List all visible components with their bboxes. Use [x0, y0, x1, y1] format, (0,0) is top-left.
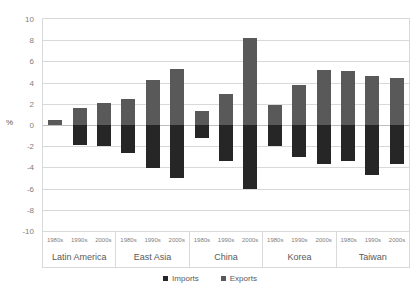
- grouped-bar-chart: % 1086420-2-4-6-8-10 1980s1990s2000sLati…: [0, 0, 420, 298]
- x-axis-decade-labels: 1980s1990s2000s: [43, 232, 115, 247]
- x-axis-decade-label: 1990s: [214, 237, 238, 243]
- bar-imports: [268, 125, 282, 146]
- y-axis-tick: 8: [0, 36, 34, 45]
- y-axis-tick-labels: 1086420-2-4-6-8-10: [0, 18, 38, 232]
- legend-swatch-icon: [163, 276, 168, 281]
- bar-slot: [390, 19, 404, 231]
- x-axis-group-label: China: [190, 247, 262, 267]
- x-axis-decade-label: 1980s: [337, 237, 361, 243]
- bar-imports: [390, 125, 404, 164]
- x-axis-category-table: 1980s1990s2000sLatin America1980s1990s20…: [42, 232, 410, 268]
- bar-slot: [268, 19, 282, 231]
- bar-exports: [146, 80, 160, 125]
- bar-exports: [97, 103, 111, 125]
- bar-slot: [317, 19, 331, 231]
- bar-exports: [292, 85, 306, 125]
- bar-group: [336, 19, 409, 231]
- x-axis-decade-label: 1990s: [141, 237, 165, 243]
- x-axis-group-cell: 1980s1990s2000sTaiwan: [336, 232, 410, 268]
- bar-exports: [195, 111, 209, 125]
- x-axis-group-label: East Asia: [116, 247, 188, 267]
- y-axis-tick: 0: [0, 121, 34, 130]
- bar-group: [116, 19, 189, 231]
- x-axis-decade-labels: 1980s1990s2000s: [116, 232, 188, 247]
- x-axis-group-cell: 1980s1990s2000sEast Asia: [115, 232, 188, 268]
- bar-imports: [146, 125, 160, 168]
- bar-exports: [219, 94, 233, 125]
- bar-slot: [48, 19, 62, 231]
- legend-label: Imports: [172, 274, 199, 283]
- bar-imports: [219, 125, 233, 161]
- legend-item[interactable]: Exports: [221, 274, 257, 283]
- bar-slot: [195, 19, 209, 231]
- x-axis-group-cell: 1980s1990s2000sLatin America: [42, 232, 115, 268]
- bar-exports: [73, 108, 87, 125]
- y-axis-tick: 10: [0, 15, 34, 24]
- bar-exports: [317, 70, 331, 125]
- x-axis-decade-label: 1990s: [67, 237, 91, 243]
- bar-exports: [48, 120, 62, 125]
- x-axis-decade-label: 2000s: [385, 237, 409, 243]
- bar-group: [189, 19, 262, 231]
- bar-exports: [243, 38, 257, 125]
- x-axis-decade-label: 1980s: [263, 237, 287, 243]
- bar-groups: [43, 19, 409, 231]
- chart-legend: ImportsExports: [0, 274, 420, 283]
- x-axis-decade-label: 2000s: [165, 237, 189, 243]
- x-axis-decade-label: 1990s: [361, 237, 385, 243]
- x-axis-group-label: Taiwan: [337, 247, 409, 267]
- bar-slot: [243, 19, 257, 231]
- x-axis-decade-label: 1980s: [43, 237, 67, 243]
- bar-group: [263, 19, 336, 231]
- x-axis-group-label: Korea: [263, 247, 335, 267]
- y-axis-tick: -10: [0, 227, 34, 236]
- x-axis-group-cell: 1980s1990s2000sChina: [189, 232, 262, 268]
- y-axis-tick: 6: [0, 57, 34, 66]
- bar-imports: [73, 125, 87, 145]
- x-axis-group-cell: 1980s1990s2000sKorea: [262, 232, 335, 268]
- bar-exports: [365, 76, 379, 125]
- x-axis-group-label: Latin America: [43, 247, 115, 267]
- bar-imports: [317, 125, 331, 164]
- bar-exports: [341, 71, 355, 125]
- bar-slot: [97, 19, 111, 231]
- bar-slot: [292, 19, 306, 231]
- x-axis-decade-label: 2000s: [238, 237, 262, 243]
- bar-group: [43, 19, 116, 231]
- bar-slot: [341, 19, 355, 231]
- x-axis-decade-label: 1990s: [287, 237, 311, 243]
- legend-label: Exports: [230, 274, 257, 283]
- x-axis-decade-label: 2000s: [312, 237, 336, 243]
- y-axis-tick: 2: [0, 99, 34, 108]
- y-axis-tick: -2: [0, 142, 34, 151]
- y-axis-tick: -4: [0, 163, 34, 172]
- x-axis-decade-labels: 1980s1990s2000s: [337, 232, 409, 247]
- bar-slot: [146, 19, 160, 231]
- bar-slot: [170, 19, 184, 231]
- bar-exports: [268, 105, 282, 125]
- y-axis-tick: -6: [0, 184, 34, 193]
- x-axis-decade-label: 1980s: [190, 237, 214, 243]
- bar-exports: [170, 69, 184, 125]
- bar-slot: [73, 19, 87, 231]
- bar-imports: [97, 125, 111, 146]
- bar-imports: [121, 125, 135, 153]
- x-axis-decade-labels: 1980s1990s2000s: [190, 232, 262, 247]
- bar-imports: [195, 125, 209, 138]
- bar-imports: [243, 125, 257, 189]
- x-axis-decade-label: 1980s: [116, 237, 140, 243]
- bar-exports: [121, 99, 135, 126]
- bar-slot: [219, 19, 233, 231]
- bar-imports: [341, 125, 355, 161]
- y-axis-tick: 4: [0, 78, 34, 87]
- bar-imports: [365, 125, 379, 175]
- bar-slot: [121, 19, 135, 231]
- x-axis-decade-label: 2000s: [91, 237, 115, 243]
- bar-imports: [170, 125, 184, 178]
- y-axis-tick: -8: [0, 205, 34, 214]
- bar-slot: [365, 19, 379, 231]
- legend-item[interactable]: Imports: [163, 274, 199, 283]
- bar-imports: [292, 125, 306, 157]
- x-axis-decade-labels: 1980s1990s2000s: [263, 232, 335, 247]
- legend-swatch-icon: [221, 276, 226, 281]
